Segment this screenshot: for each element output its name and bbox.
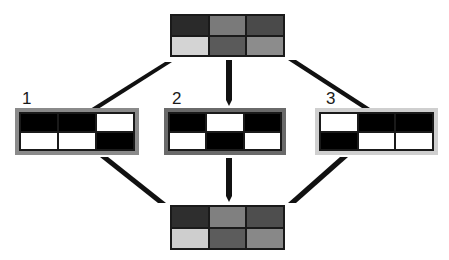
pattern-2-label: 2 <box>172 90 181 107</box>
grid-cell <box>207 114 242 131</box>
grid-cell <box>59 114 95 131</box>
grid-cell <box>359 133 395 150</box>
pattern-3-frame <box>315 108 438 155</box>
grid-cell <box>210 37 246 56</box>
grid-cell <box>247 229 283 249</box>
grid-cell <box>97 114 133 131</box>
bottom-color-grid <box>170 205 285 250</box>
grid-cell <box>170 133 205 150</box>
grid-cell <box>321 114 357 131</box>
arrow-top-to-pattern-2 <box>226 60 232 106</box>
top-color-grid <box>170 14 285 57</box>
grid-cell <box>172 16 208 35</box>
grid-cell <box>172 37 208 56</box>
grid-cell <box>247 37 283 56</box>
grid-cell <box>172 207 208 227</box>
grid-cell <box>396 133 432 150</box>
grid-cell <box>210 207 246 227</box>
arrow-pattern-3-to-bottom <box>288 157 348 203</box>
pattern-2-grid <box>168 112 282 151</box>
grid-cell <box>245 133 280 150</box>
grid-cell <box>247 16 283 35</box>
pattern-1-frame <box>15 108 139 155</box>
arrow-top-to-pattern-1 <box>87 62 172 111</box>
pattern-2-frame <box>164 108 286 155</box>
grid-cell <box>172 229 208 249</box>
grid-cell <box>170 114 205 131</box>
pattern-1-label: 1 <box>22 90 31 107</box>
grid-cell <box>97 133 133 150</box>
grid-cell <box>396 114 432 131</box>
arrow-pattern-1-to-bottom <box>100 157 166 203</box>
grid-cell <box>245 114 280 131</box>
pattern-3-label: 3 <box>326 90 335 107</box>
grid-cell <box>247 207 283 227</box>
grid-cell <box>359 114 395 131</box>
grid-cell <box>21 133 57 150</box>
pattern-1-grid <box>19 112 135 151</box>
grid-cell <box>207 133 242 150</box>
grid-cell <box>210 229 246 249</box>
arrow-pattern-2-to-bottom <box>226 158 232 202</box>
grid-cell <box>210 16 246 35</box>
grid-cell <box>59 133 95 150</box>
grid-cell <box>321 133 357 150</box>
grid-cell <box>21 114 57 131</box>
pattern-3-grid <box>319 112 434 151</box>
